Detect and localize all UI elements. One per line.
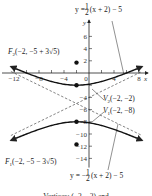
x-tick-label: 4 (112, 75, 116, 83)
caption: Vertices: (−2, −2) and (43, 192, 109, 196)
point-v1 (74, 120, 78, 124)
leader-line (92, 112, 104, 122)
asymptote-top-label: y = 12(x + 2) − 5 (75, 2, 122, 17)
leader-line (108, 124, 118, 170)
fraction-denominator: 2 (86, 174, 90, 183)
x-axis-label: x (143, 75, 148, 83)
leader-line (112, 21, 124, 75)
equation-suffix: (x + 2) − 5 (91, 171, 123, 180)
y-tick-label: −4 (80, 94, 88, 102)
point-f1 (74, 142, 78, 146)
y-tick-label: −6 (80, 106, 88, 114)
focus-f1-label: F1(−2, −5 − 3√5) (4, 157, 57, 167)
origin-label: 0 (84, 75, 88, 83)
y-tick-label: 6 (84, 33, 88, 41)
hyperbola-upper-branch (11, 67, 142, 86)
x-tick-label: −12 (9, 75, 20, 83)
y-tick-label: −14 (76, 155, 87, 163)
x-tick-label: −4 (60, 75, 68, 83)
point-v2 (74, 83, 78, 87)
y-tick-label: 4 (84, 45, 88, 53)
equation-prefix: y = (75, 5, 85, 14)
focus-f2-label: F2(−2, −5 + 3√5) (7, 47, 60, 57)
vertex-v1-label: V1(−2, −8) (103, 106, 135, 116)
asymptote-bottom-label: y = −12(x + 2) − 5 (70, 168, 123, 183)
equation-prefix: y = − (70, 171, 86, 180)
x-tick-label: 8 (137, 75, 141, 83)
point-f2 (74, 60, 78, 64)
fraction-denominator: 2 (85, 8, 89, 17)
y-tick-label: −10 (76, 131, 87, 139)
equation-suffix: (x + 2) − 5 (90, 5, 122, 14)
y-axis-label: y (82, 19, 87, 27)
hyperbola-chart: xy−12−8−4480642−4−6−8−10−12−14 F2(−2, −5… (0, 0, 152, 196)
vertex-v2-label: V2(−2, −2) (103, 94, 135, 104)
y-tick-label: 2 (84, 57, 88, 65)
